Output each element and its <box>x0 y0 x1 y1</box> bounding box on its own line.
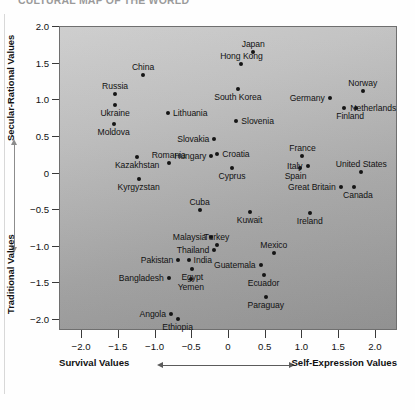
data-point-label: Finland <box>336 111 364 121</box>
x-axis-tick <box>338 330 339 338</box>
x-axis-tick <box>118 330 119 338</box>
data-point <box>167 161 171 165</box>
data-point-label: Slovakia <box>177 134 209 144</box>
x-axis-tick <box>155 330 156 338</box>
data-point-label: South Korea <box>214 92 261 102</box>
data-point-label: Angola <box>139 309 165 319</box>
data-point-label: Cuba <box>189 197 209 207</box>
data-point-label: Moldova <box>98 127 130 137</box>
y-axis-tick-label: 2.0 <box>3 21 49 32</box>
data-point <box>212 248 216 252</box>
cultural-map-figure: CULTURAL MAP OF THE WORLD Secular-Ration… <box>0 0 415 410</box>
data-point <box>308 211 312 215</box>
data-point <box>166 111 170 115</box>
data-point <box>248 210 252 214</box>
y-axis-tick-label: −0.5 <box>3 204 49 215</box>
data-point-label: Ethiopia <box>162 322 193 332</box>
data-point <box>167 276 171 280</box>
data-point <box>113 103 117 107</box>
data-point-label: Great Britain <box>288 182 336 192</box>
data-point <box>239 62 243 66</box>
y-axis-tick-label: −1.5 <box>3 277 49 288</box>
data-point <box>187 258 191 262</box>
data-point-label: Croatia <box>222 149 249 159</box>
data-point <box>212 137 216 141</box>
data-point-label: Paraguay <box>248 300 284 310</box>
y-axis-tick-label: 1.5 <box>3 57 49 68</box>
data-point <box>198 208 202 212</box>
data-point-label: Bangladesh <box>119 273 164 283</box>
data-point <box>306 164 310 168</box>
x-axis-caption: Survival Values Self-Expression Values <box>59 356 397 374</box>
data-point-label: Ecuador <box>248 278 280 288</box>
data-point-label: Norway <box>348 78 377 88</box>
data-point <box>215 243 219 247</box>
data-point <box>259 263 263 267</box>
data-point <box>264 295 268 299</box>
x-axis-tick <box>375 330 376 338</box>
data-point-label: Pakistan <box>141 255 174 265</box>
data-point <box>328 96 332 100</box>
plot-area: JapanHong KongChinaSouth KoreaNorwayRuss… <box>59 26 397 330</box>
data-point-label: Yemen <box>178 282 204 292</box>
data-point-label: Kuwait <box>237 215 263 225</box>
x-axis-tick <box>301 330 302 338</box>
data-point-label: India <box>194 255 212 265</box>
data-point <box>361 89 365 93</box>
data-point-label: Kyrgyzstan <box>118 182 160 192</box>
data-point-label: Russia <box>102 81 128 91</box>
data-point-label: Cyprus <box>218 171 245 181</box>
data-point <box>359 170 363 174</box>
y-axis-caption-bottom: Traditional Values <box>5 220 25 328</box>
data-point <box>230 166 234 170</box>
y-axis-tick-label: −2.0 <box>3 314 49 325</box>
x-axis-tick <box>228 330 229 338</box>
data-point-label: Turkey <box>204 232 230 242</box>
data-point-label: Malaysia <box>173 232 207 242</box>
data-point <box>112 122 116 126</box>
data-point-label: Hong Kong <box>220 51 263 61</box>
x-axis-direction-arrow <box>163 365 289 366</box>
data-point <box>169 312 173 316</box>
data-point <box>176 258 180 262</box>
data-point <box>176 317 180 321</box>
y-axis-tick-label: 0.5 <box>3 130 49 141</box>
data-point-label: France <box>289 143 315 153</box>
data-point <box>342 106 346 110</box>
x-axis-tick <box>81 330 82 338</box>
data-point-label: Romania <box>152 150 186 160</box>
data-point <box>215 152 219 156</box>
data-point-label: Kazakhstan <box>115 160 159 170</box>
data-point <box>352 185 356 189</box>
data-point <box>272 251 276 255</box>
data-point-label: Mexico <box>260 240 287 250</box>
data-point-label: Spain <box>285 171 307 181</box>
x-axis-caption-right: Self-Expression Values <box>291 357 397 368</box>
y-axis-tick-label: 1.0 <box>3 94 49 105</box>
data-point <box>236 87 240 91</box>
data-point <box>190 267 194 271</box>
data-point <box>234 119 238 123</box>
y-axis-tick-label: 0 <box>3 167 49 178</box>
data-point-label: United States <box>336 159 387 169</box>
data-point <box>137 177 141 181</box>
data-point-label: Lithuania <box>173 108 207 118</box>
data-point-label: Japan <box>242 39 265 49</box>
data-point-label: Ireland <box>297 216 323 226</box>
x-axis-tick-label: 2.0 <box>353 341 397 352</box>
data-point <box>141 73 145 77</box>
data-point <box>209 154 213 158</box>
data-point <box>300 154 304 158</box>
data-point-label: Guatemala <box>214 260 256 270</box>
data-point <box>135 155 139 159</box>
data-point <box>262 273 266 277</box>
data-point-label: Germany <box>290 93 325 103</box>
data-point-label: Ukraine <box>100 108 129 118</box>
data-point-label: China <box>132 62 154 72</box>
data-point-label: Egypt <box>181 272 203 282</box>
figure-title: CULTURAL MAP OF THE WORLD <box>18 0 278 8</box>
data-point <box>339 185 343 189</box>
data-point-label: Thailand <box>177 245 210 255</box>
x-axis-caption-left: Survival Values <box>59 357 129 368</box>
data-point-label: Slovenia <box>241 116 274 126</box>
